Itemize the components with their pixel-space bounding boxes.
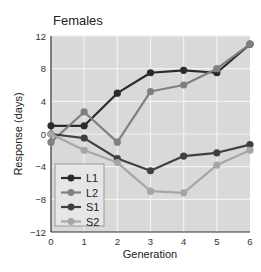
legend-marker-icon xyxy=(68,218,75,225)
data-point xyxy=(47,139,54,146)
data-point xyxy=(213,65,220,72)
y-tick-labels: 12840−4−8−12 xyxy=(30,31,46,238)
data-point xyxy=(81,147,88,154)
data-point xyxy=(180,67,187,74)
legend-label: S2 xyxy=(86,216,99,228)
x-tick-label: 6 xyxy=(247,236,252,247)
line-chart: Females 12840−4−8−12 0123456 L1L2S1S2 Ge… xyxy=(0,0,261,272)
legend-marker-icon xyxy=(68,175,75,182)
x-tick-labels: 0123456 xyxy=(48,236,252,247)
data-point xyxy=(246,41,253,48)
data-point xyxy=(213,149,220,156)
legend-marker-icon xyxy=(68,189,75,196)
data-point xyxy=(180,152,187,159)
x-tick-label: 2 xyxy=(115,236,120,247)
data-point xyxy=(147,188,154,195)
chart-title: Females xyxy=(53,13,103,28)
y-tick-label: 4 xyxy=(41,96,46,107)
data-point xyxy=(81,108,88,115)
data-point xyxy=(213,161,220,168)
y-axis-label: Response (days) xyxy=(12,92,24,175)
x-tick-label: 5 xyxy=(214,236,219,247)
data-point xyxy=(47,130,54,137)
y-tick-label: −4 xyxy=(35,161,46,172)
legend-label: L2 xyxy=(86,187,98,199)
data-point xyxy=(180,189,187,196)
x-tick-label: 4 xyxy=(181,236,186,247)
x-axis-label: Generation xyxy=(123,248,177,260)
x-tick-label: 0 xyxy=(48,236,53,247)
data-point xyxy=(47,122,54,129)
data-point xyxy=(81,122,88,129)
y-tick-label: 12 xyxy=(35,31,46,42)
legend-label: L1 xyxy=(86,172,98,184)
legend: L1L2S1S2 xyxy=(55,164,104,228)
data-point xyxy=(114,90,121,97)
data-point xyxy=(114,159,121,166)
y-tick-label: 8 xyxy=(41,63,46,74)
data-point xyxy=(114,139,121,146)
legend-marker-icon xyxy=(68,204,75,211)
x-tick-label: 1 xyxy=(82,236,87,247)
data-point xyxy=(147,88,154,95)
x-tick-label: 3 xyxy=(148,236,153,247)
legend-label: S1 xyxy=(86,201,99,213)
data-point xyxy=(246,147,253,154)
data-point xyxy=(180,81,187,88)
data-point xyxy=(147,69,154,76)
y-tick-label: 0 xyxy=(41,129,46,140)
y-tick-label: −12 xyxy=(30,227,46,238)
y-tick-label: −8 xyxy=(35,194,46,205)
data-point xyxy=(147,167,154,174)
data-point xyxy=(81,134,88,141)
